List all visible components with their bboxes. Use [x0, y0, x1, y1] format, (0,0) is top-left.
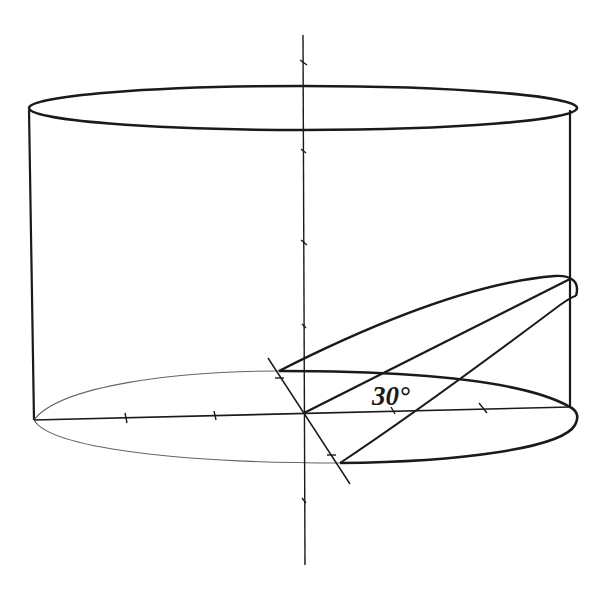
- horizontal-tick: [125, 413, 127, 423]
- vertical-axis: [303, 35, 305, 565]
- diagonal-diameter: [268, 358, 350, 484]
- base-ellipse-back-arc: [34, 371, 279, 420]
- cylinder-left-wall: [29, 110, 34, 420]
- horizontal-tick: [479, 403, 487, 413]
- cylinder-section-diagram: 30°: [0, 0, 608, 591]
- horizontal-tick: [214, 411, 216, 420]
- section-ellipse-upper-arc: [279, 276, 577, 371]
- base-ellipse-back-right-arc: [279, 371, 570, 407]
- base-ellipse-front-right-arc: [340, 407, 577, 463]
- base-ellipse-front-left-arc: [34, 420, 340, 463]
- section-ellipse-lower-arc: [340, 296, 576, 463]
- angle-label: 30°: [371, 381, 410, 411]
